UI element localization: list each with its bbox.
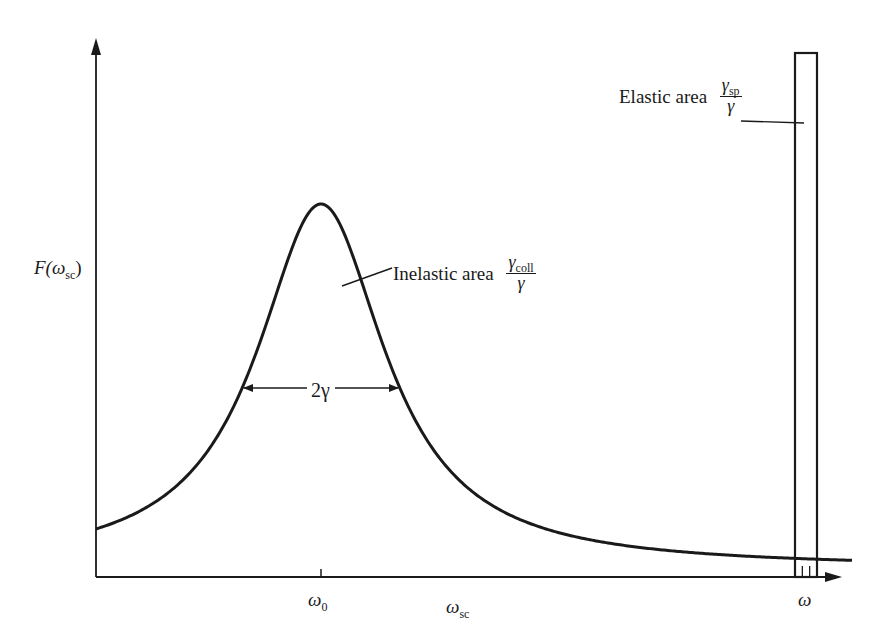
y-label-close: ) — [75, 257, 81, 278]
y-axis-arrow-icon — [91, 38, 101, 55]
tick-label-omega: ω — [798, 590, 811, 609]
fwhm-label: 2γ — [308, 380, 333, 400]
y-axis-label: F(ωsc) — [34, 258, 82, 277]
elastic-text: Elastic area — [619, 86, 707, 107]
x-label-sub: sc — [459, 607, 469, 621]
inelastic-denominator: γ — [506, 274, 535, 294]
inelastic-numerator: γcoll — [506, 253, 535, 274]
elastic-numerator: γsp — [720, 76, 742, 97]
plot-area — [0, 0, 885, 641]
elastic-spike-bar — [795, 53, 817, 577]
elastic-denominator: γ — [720, 97, 742, 117]
inelastic-fraction: γcoll γ — [506, 253, 535, 294]
inelastic-num-sub: coll — [516, 261, 534, 275]
elastic-num-main: γ — [722, 75, 729, 95]
x-label-main: ω — [446, 596, 459, 617]
inelastic-leader-line — [342, 268, 392, 286]
x-axis-arrow-icon — [825, 572, 842, 582]
inelastic-text: Inelastic area — [393, 263, 494, 284]
tick-label-omega0: ω0 — [308, 590, 327, 609]
inelastic-annotation: Inelastic area γcoll γ — [393, 253, 536, 294]
y-label-main: F(ω — [34, 257, 65, 278]
elastic-num-sub: sp — [729, 84, 740, 98]
elastic-annotation: Elastic area γsp γ — [619, 76, 742, 117]
elastic-fraction: γsp γ — [720, 76, 742, 117]
tick-omega0-main: ω — [308, 589, 321, 610]
inelastic-num-main: γ — [508, 252, 515, 272]
x-axis-label: ωsc — [446, 597, 469, 616]
figure: F(ωsc) ω0 ωsc ω 2γ Inelastic area γcoll … — [0, 0, 885, 641]
tick-omega0-sub: 0 — [321, 600, 327, 614]
y-label-sub: sc — [65, 268, 75, 282]
